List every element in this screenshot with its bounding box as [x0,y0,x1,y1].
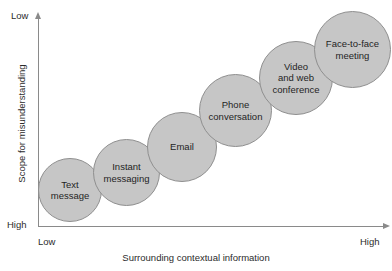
y-axis-title: Scope for misunderstanding [16,59,27,189]
bubble-face-to-face-meeting[interactable]: Face-to-facemeeting [314,11,391,88]
x-axis-high-label: High [360,236,380,247]
x-axis-low-label: Low [38,236,55,247]
bubble-label: Textmessage [47,179,94,202]
bubble-label: Email [166,141,198,153]
bubble-label: Phoneconversation [205,99,267,122]
x-axis-title: Surrounding contextual information [0,252,392,263]
y-axis-low-label: Low [11,10,28,21]
bubble-chart: Low High Low High Scope for misunderstan… [0,0,392,271]
bubble-label: Face-to-facemeeting [322,38,383,61]
x-axis-arrow-icon [383,223,390,229]
x-axis-line [38,226,385,227]
bubble-label: Instantmessaging [100,161,154,184]
bubble-label: Videoand webconference [268,61,323,96]
y-axis-arrow-icon [35,12,41,19]
y-axis-high-label: High [7,219,27,230]
